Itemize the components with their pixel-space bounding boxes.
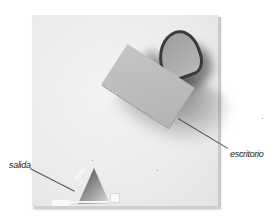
exit-threshold [68,201,116,203]
salida-label: salida [9,160,31,170]
board-speck [92,160,93,161]
board-speck [157,170,158,171]
board-edge [34,206,221,209]
escritorio-label: escritorio [230,149,264,159]
speck [262,118,263,119]
exit-post [110,193,120,203]
